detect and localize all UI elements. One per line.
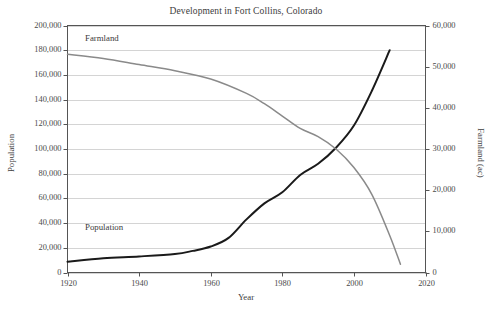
- y-tick-label-left: 100,000: [16, 144, 62, 153]
- y-axis-label-right: Farmland (ac): [476, 118, 486, 188]
- x-tick-label: 1960: [189, 279, 235, 288]
- plot-frame: [68, 26, 426, 273]
- x-axis-label: Year: [0, 292, 492, 302]
- y-tick-label-right: 20,000: [433, 185, 479, 194]
- gridlines: [68, 27, 426, 274]
- y-tick-label-right: 10,000: [433, 226, 479, 235]
- axis-ticks: [64, 27, 430, 277]
- x-tick-label: 1920: [46, 279, 92, 288]
- y-tick-label-left: 180,000: [16, 45, 62, 54]
- series-annotation-population: Population: [85, 222, 123, 232]
- y-tick-label-right: 40,000: [433, 103, 479, 112]
- y-tick-label-left: 20,000: [16, 243, 62, 252]
- y-tick-label-left: 140,000: [16, 95, 62, 104]
- x-tick-label: 1980: [260, 279, 306, 288]
- y-tick-label-left: 60,000: [16, 193, 62, 202]
- y-tick-label-left: 0: [16, 268, 62, 277]
- y-tick-label-left: 160,000: [16, 70, 62, 79]
- x-tick-label: 2020: [404, 279, 450, 288]
- y-tick-label-right: 60,000: [433, 21, 479, 30]
- plot-canvas: [0, 0, 492, 312]
- series-paths: [68, 50, 401, 264]
- x-tick-label: 1940: [117, 279, 163, 288]
- y-tick-label-right: 50,000: [433, 62, 479, 71]
- y-tick-label-left: 40,000: [16, 218, 62, 227]
- y-axis-label-left: Population: [6, 118, 16, 188]
- y-tick-label-right: 0: [433, 268, 479, 277]
- series-annotation-farmland: Farmland: [85, 33, 119, 43]
- y-tick-label-left: 120,000: [16, 119, 62, 128]
- y-tick-label-right: 30,000: [433, 144, 479, 153]
- chart-figure: Development in Fort Collins, Colorado Po…: [0, 0, 492, 312]
- y-tick-label-left: 80,000: [16, 169, 62, 178]
- y-tick-label-left: 200,000: [16, 21, 62, 30]
- x-tick-label: 2000: [332, 279, 378, 288]
